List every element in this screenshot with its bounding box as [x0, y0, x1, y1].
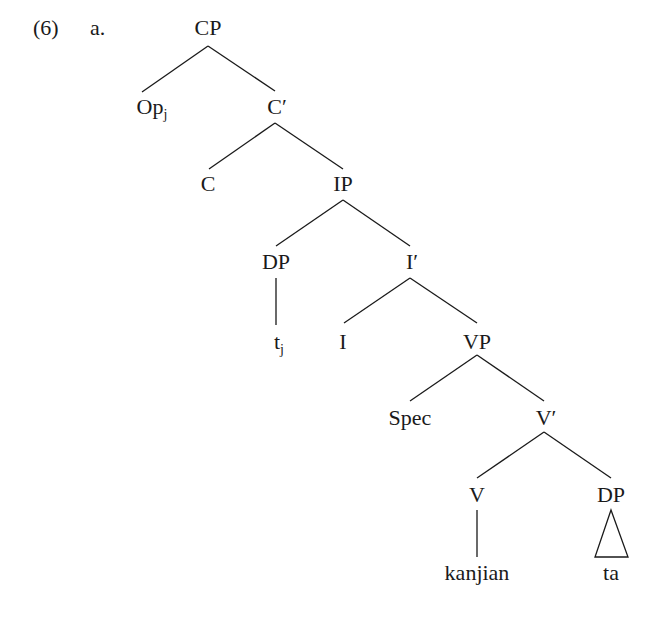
word-ta: ta [603, 561, 619, 585]
branch-vbar-v [477, 432, 544, 478]
node-v-bar: V′ [536, 406, 557, 430]
dp-triangle [595, 510, 628, 557]
word-kanjian: kanjian [445, 561, 510, 585]
node-op: Opj [137, 95, 168, 119]
node-op-label: Op [137, 94, 164, 119]
branch-ibar-vp [410, 278, 477, 323]
node-i: I [339, 330, 346, 354]
branch-cp-cbar [208, 46, 275, 91]
branch-cbar-ip [275, 123, 343, 169]
branch-vbar-dp [544, 432, 611, 478]
node-ip: IP [333, 172, 353, 196]
node-c-bar: C′ [267, 95, 287, 119]
node-c: C [201, 172, 216, 196]
node-vp: VP [463, 330, 491, 354]
node-i-bar: I′ [406, 250, 418, 274]
branch-cbar-c [209, 123, 275, 169]
tree-branches [0, 0, 661, 618]
node-dp-object: DP [597, 483, 625, 507]
branch-vp-spec [410, 355, 477, 401]
node-op-index: j [164, 107, 168, 122]
node-dp-subject: DP [262, 250, 290, 274]
branch-ibar-i [344, 278, 410, 323]
node-v: V [469, 483, 485, 507]
node-spec: Spec [389, 406, 432, 430]
branch-vp-vbar [477, 355, 544, 401]
branch-ip-ibar [343, 200, 410, 246]
node-trace: tj [274, 330, 284, 354]
branch-cp-op [142, 46, 208, 92]
node-cp: CP [195, 16, 222, 40]
node-trace-index: j [280, 342, 284, 357]
branch-ip-dp [276, 200, 343, 246]
